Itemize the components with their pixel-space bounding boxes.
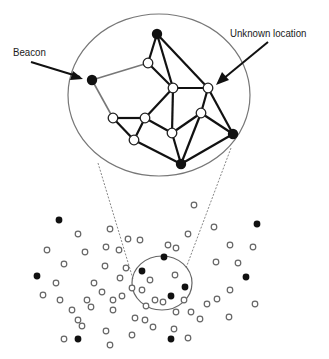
beacon-sensor xyxy=(243,274,250,281)
unknown-sensor xyxy=(252,301,258,307)
unknown-sensor xyxy=(214,296,220,302)
network-localization-diagram xyxy=(0,0,329,359)
unknown-sensor xyxy=(132,315,138,321)
unknown-sensor xyxy=(53,280,59,286)
unknown-sensor xyxy=(227,242,233,248)
unknown-sensor xyxy=(125,236,131,242)
unknown-sensor xyxy=(137,237,143,243)
unknown-sensor xyxy=(75,317,81,323)
unknown-sensor xyxy=(129,285,135,291)
beacon-node xyxy=(176,159,186,169)
unknown-sensor xyxy=(143,303,149,309)
beacon-sensor xyxy=(56,217,63,224)
network-edge xyxy=(172,88,173,133)
beacon-sensor xyxy=(161,254,168,261)
unknown-sensor xyxy=(123,265,129,271)
unknown-sensor xyxy=(69,307,75,313)
beacon-node xyxy=(87,75,97,85)
unknown-sensor xyxy=(107,226,113,232)
unknown-sensor xyxy=(75,231,81,237)
unknown-sensor xyxy=(84,297,90,303)
unknown-sensor xyxy=(173,245,179,251)
unknown-sensor xyxy=(152,297,158,303)
unknown-sensor xyxy=(188,309,194,315)
unknown-sensor xyxy=(185,335,191,341)
unknown-sensor xyxy=(99,289,105,295)
unknown-sensor xyxy=(213,259,219,265)
diagram-canvas: Beacon Unknown location xyxy=(0,0,329,359)
unknown-sensor xyxy=(165,242,171,248)
beacon-sensor xyxy=(182,284,189,291)
unknown-sensor xyxy=(82,249,88,255)
unknown-sensor xyxy=(102,263,108,269)
beacon-sensor xyxy=(139,268,146,275)
unknown-sensor xyxy=(181,297,187,303)
unknown-location-label: Unknown location xyxy=(230,27,306,39)
unknown-sensor xyxy=(103,328,109,334)
unknown-sensor xyxy=(44,247,50,253)
unknown-node xyxy=(143,58,153,68)
unknown-sensor xyxy=(61,336,67,342)
unknown-sensor xyxy=(57,297,63,303)
unknown-sensor xyxy=(197,316,203,322)
unknown-sensor xyxy=(172,272,178,278)
unknown-sensor xyxy=(226,314,232,320)
unknown-sensor xyxy=(103,244,109,250)
unknown-sensor xyxy=(119,293,125,299)
unknown-sensor xyxy=(150,324,156,330)
unknown-sensor xyxy=(171,326,177,332)
beacon-sensor xyxy=(34,273,41,280)
unknown-node xyxy=(168,83,178,93)
beacon-node xyxy=(152,29,162,39)
unknown-sensor xyxy=(173,309,179,315)
unknown-sensor xyxy=(129,332,135,338)
unknown-sensor xyxy=(117,275,123,281)
unknown-sensor xyxy=(110,297,116,303)
unknown-sensor xyxy=(250,244,256,250)
unknown-sensor xyxy=(61,261,67,267)
unknown-node xyxy=(108,113,118,123)
beacon-node xyxy=(228,129,238,139)
unknown-sensor xyxy=(191,202,197,208)
unknown-sensor xyxy=(227,287,233,293)
unknown-node xyxy=(129,135,139,145)
beacon-label: Beacon xyxy=(13,46,46,58)
unknown-sensor xyxy=(235,260,241,266)
unknown-sensor xyxy=(204,301,210,307)
unknown-node xyxy=(167,128,177,138)
unknown-sensor xyxy=(185,231,191,237)
unknown-node xyxy=(196,108,206,118)
unknown-sensor xyxy=(139,287,145,293)
unknown-sensor xyxy=(142,317,148,323)
sensor-field-scatter xyxy=(34,202,261,348)
unknown-sensor xyxy=(88,304,94,310)
unknown-sensor xyxy=(107,342,113,348)
guide-line-left xyxy=(98,163,133,279)
unknown-sensor xyxy=(110,307,116,313)
unknown-sensor xyxy=(211,224,217,230)
beacon-sensor xyxy=(168,293,175,300)
unknown-sensor xyxy=(91,280,97,286)
unknown-sensor xyxy=(40,292,46,298)
unknown-sensor xyxy=(116,247,122,253)
unknown-sensor xyxy=(79,323,85,329)
unknown-node xyxy=(140,113,150,123)
beacon-sensor xyxy=(168,336,175,343)
beacon-sensor xyxy=(254,221,261,228)
unknown-node xyxy=(203,83,213,93)
beacon-sensor xyxy=(75,336,82,343)
unknown-sensor xyxy=(160,299,166,305)
unknown-sensor xyxy=(147,277,153,283)
